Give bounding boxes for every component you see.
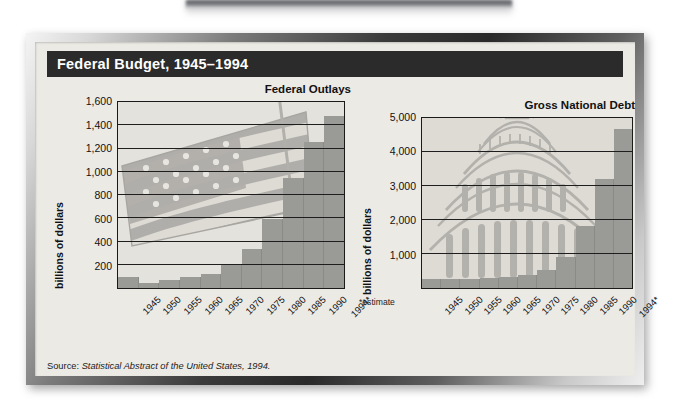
poster-frame: Federal Budget, 1945–1994 Federal Outlay… xyxy=(26,33,644,385)
y-tick-label: 1,600 xyxy=(86,95,112,107)
bar-federal-outlays-1994 xyxy=(324,116,344,289)
y-tick-label: 2,000 xyxy=(390,214,416,226)
bar-gross-national-debt-1985 xyxy=(576,226,595,288)
gridline xyxy=(422,253,632,254)
source-citation: Statistical Abstract of the United State… xyxy=(82,361,271,371)
x-tick-label: 1970 xyxy=(539,294,562,317)
source-note: Source: Statistical Abstract of the Unit… xyxy=(47,361,270,371)
gridline xyxy=(118,124,344,125)
bar-gross-national-debt-1950 xyxy=(441,279,460,288)
plot-area-outlays xyxy=(117,101,345,289)
gridline xyxy=(118,194,344,195)
bar-gross-national-debt-1970 xyxy=(518,275,537,288)
y-tick-label: 1,400 xyxy=(86,119,112,131)
page-title: Federal Budget, 1945–1994 xyxy=(57,56,248,72)
bar-federal-outlays-1975 xyxy=(242,249,263,288)
bar-federal-outlays-1945 xyxy=(118,277,139,288)
gridline xyxy=(118,264,344,265)
x-tick-label: 1950 xyxy=(462,294,485,317)
bar-gross-national-debt-1994 xyxy=(614,129,632,288)
y-tick-label: 200 xyxy=(94,260,112,272)
y-axis-label-debt: billions of dollars xyxy=(361,208,373,295)
bar-federal-outlays-1955 xyxy=(159,280,180,288)
estimate-footnote: *estimate xyxy=(359,297,395,307)
y-tick-label: 5,000 xyxy=(390,111,416,123)
gridline xyxy=(118,171,344,172)
bar-federal-outlays-1970 xyxy=(221,265,242,288)
x-tick-label: 1970 xyxy=(243,294,266,317)
y-tick-label: 3,000 xyxy=(390,180,416,192)
bar-federal-outlays-1950 xyxy=(139,283,160,288)
y-axis-label-outlays: billions of dollars xyxy=(53,202,65,289)
x-tick-label: 1994* xyxy=(636,294,661,319)
bar-federal-outlays-1960 xyxy=(180,277,201,288)
x-tick-label: 1945 xyxy=(140,294,163,317)
bar-gross-national-debt-1975 xyxy=(537,270,556,288)
x-tick-label: 1950 xyxy=(160,294,183,317)
x-tick-label: 1965 xyxy=(223,294,246,317)
gridline xyxy=(422,151,632,152)
bar-federal-outlays-1980 xyxy=(262,219,283,288)
plot-area-debt xyxy=(421,117,633,289)
title-bar: Federal Budget, 1945–1994 xyxy=(47,51,623,77)
chart-title-debt: Gross National Debt xyxy=(524,99,635,111)
x-tick-label: 1960 xyxy=(202,294,225,317)
bar-gross-national-debt-1955 xyxy=(460,279,479,288)
chart-title-outlays: Federal Outlays xyxy=(265,83,351,95)
bar-gross-national-debt-1980 xyxy=(556,257,575,288)
x-tick-label: 1990 xyxy=(326,294,349,317)
source-prefix: Source: xyxy=(47,361,79,371)
x-tick-label: 1965 xyxy=(520,294,543,317)
gridline xyxy=(118,241,344,242)
x-tick-label: 1980 xyxy=(578,294,601,317)
x-tick-label: 1975 xyxy=(264,294,287,317)
x-tick-label: 1990 xyxy=(616,294,639,317)
x-tick-label: 1955 xyxy=(481,294,504,317)
y-tick-label: 1,200 xyxy=(86,142,112,154)
x-tick-label: 1960 xyxy=(500,294,523,317)
y-tick-label: 4,000 xyxy=(390,145,416,157)
x-tick-label: 1975 xyxy=(558,294,581,317)
x-tick-label: 1985 xyxy=(597,294,620,317)
gridline xyxy=(422,219,632,220)
gridline xyxy=(118,217,344,218)
y-tick-label: 600 xyxy=(94,213,112,225)
bar-gross-national-debt-1960 xyxy=(480,278,499,288)
y-tick-label: 1,000 xyxy=(86,166,112,178)
bar-federal-outlays-1990 xyxy=(304,142,325,288)
bar-gross-national-debt-1965 xyxy=(499,277,518,288)
y-tick-label: 1,000 xyxy=(390,249,416,261)
scan-artifact-band xyxy=(186,0,512,9)
bar-gross-national-debt-1990 xyxy=(595,179,614,288)
y-tick-label: 400 xyxy=(94,236,112,248)
gridline xyxy=(422,185,632,186)
poster-inner: Federal Budget, 1945–1994 Federal Outlay… xyxy=(35,42,635,376)
charts-container: Federal Outlays billions of dollars xyxy=(47,77,623,345)
y-tick-label: 800 xyxy=(94,189,112,201)
bar-gross-national-debt-1945 xyxy=(422,279,441,288)
bar-federal-outlays-1965 xyxy=(201,274,222,288)
bars-outlays xyxy=(118,102,344,288)
x-tick-label: 1955 xyxy=(181,294,204,317)
x-tick-label: 1985 xyxy=(306,294,329,317)
bars-debt xyxy=(422,118,632,288)
x-tick-label: 1980 xyxy=(285,294,308,317)
x-tick-label: 1945 xyxy=(443,294,466,317)
gridline xyxy=(118,148,344,149)
